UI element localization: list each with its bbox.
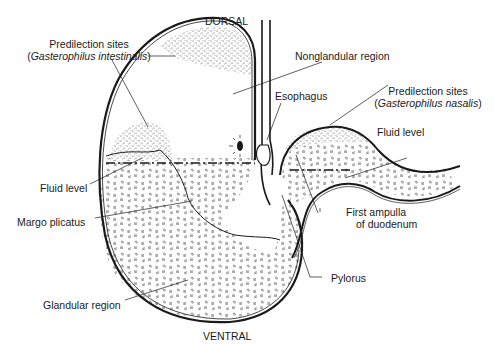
label-predilection-intestinalis-line1: Predilection sites [24,38,154,50]
predilection-area-intestinalis-ventral [110,122,172,160]
label-nonglandular-region: Nonglandular region [295,50,390,62]
label-first-ampulla: First ampulla of duodenum [346,206,417,230]
label-fluid-level-right: Fluid level [377,126,424,138]
label-margo-plicatus: Margo plicatus [17,216,85,228]
label-predilection-nasalis-line2: (Gasterophilus nasalis) [369,97,487,109]
label-predilection-intestinalis: Predilection sites (Gasterophilus intest… [24,38,154,62]
label-fluid-level-left: Fluid level [40,182,87,194]
label-pylorus: Pylorus [331,272,366,284]
cardia-icon [229,135,243,157]
label-esophagus: Esophagus [275,90,328,102]
orientation-dorsal: DORSAL [205,15,248,27]
orientation-ventral: VENTRAL [203,330,251,342]
label-glandular-region: Glandular region [43,299,121,311]
label-predilection-intestinalis-line2: (Gasterophilus intestinalis) [24,50,154,62]
label-first-ampulla-line1: First ampulla [346,206,417,218]
label-predilection-nasalis: Predilection sites (Gasterophilus nasali… [369,85,487,109]
predilection-area-intestinalis-dorsal [160,27,252,75]
label-predilection-nasalis-line1: Predilection sites [369,85,487,97]
label-first-ampulla-line2: of duodenum [346,218,417,230]
esophagus [261,20,273,205]
